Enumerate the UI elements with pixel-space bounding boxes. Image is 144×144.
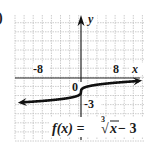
function-lhs: f(x) =: [52, 121, 84, 137]
x-tick-label-8: 8: [113, 62, 119, 76]
svg-text:f(x) =: f(x) =: [52, 121, 84, 137]
radical-sign: √: [101, 121, 109, 136]
y-tick-label-neg3: -3: [84, 97, 94, 111]
x-tick-label-neg8: -8: [33, 62, 43, 76]
panel-marker: ): [0, 10, 3, 26]
y-axis-label: y: [86, 12, 94, 26]
origin-label: 0: [72, 80, 78, 94]
radicand: x: [109, 121, 117, 136]
function-graph: ) y x -8 8 0 -3 f(x) = 3 √ x − 3: [0, 0, 144, 144]
function-rhs: − 3: [118, 121, 136, 136]
x-axis-label: x: [131, 62, 138, 76]
